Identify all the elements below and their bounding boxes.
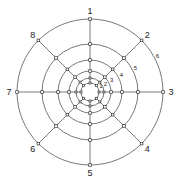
node-marker xyxy=(55,125,58,128)
spoke-label-5: 5 xyxy=(87,168,92,178)
node-marker xyxy=(103,91,105,93)
node-marker xyxy=(37,39,40,42)
node-marker xyxy=(83,97,85,99)
node-marker xyxy=(89,59,92,62)
node-marker xyxy=(68,91,71,94)
spoke-label-7: 7 xyxy=(6,87,11,97)
node-marker xyxy=(75,91,77,93)
node-marker xyxy=(89,18,92,21)
node-marker xyxy=(89,105,91,107)
ring-label-3: 3 xyxy=(110,77,114,83)
node-marker xyxy=(41,91,44,94)
node-marker xyxy=(66,113,69,116)
node-marker xyxy=(104,76,107,79)
node-marker xyxy=(74,76,77,79)
spoke-label-1: 1 xyxy=(87,6,92,16)
node-marker xyxy=(140,142,143,145)
node-marker xyxy=(79,101,81,103)
ring-label-6: 6 xyxy=(156,53,160,59)
node-marker xyxy=(123,57,126,60)
node-marker xyxy=(80,91,82,93)
node-marker xyxy=(89,82,91,84)
node-marker xyxy=(79,81,81,83)
node-marker xyxy=(89,70,92,73)
node-marker xyxy=(111,113,114,116)
node-marker xyxy=(98,91,100,93)
node-marker xyxy=(140,39,143,42)
node-marker xyxy=(104,106,107,109)
node-marker xyxy=(89,43,92,46)
spoke-label-8: 8 xyxy=(30,30,35,40)
ring-label-2: 2 xyxy=(104,81,108,87)
spoke-label-6: 6 xyxy=(30,144,35,154)
node-marker xyxy=(162,91,165,94)
node-marker xyxy=(57,91,60,94)
node-marker xyxy=(89,112,92,115)
node-marker xyxy=(89,164,92,167)
node-marker xyxy=(89,100,91,102)
node-marker xyxy=(99,101,101,103)
node-marker xyxy=(89,123,92,126)
node-marker xyxy=(111,68,114,71)
node-marker xyxy=(110,91,113,94)
node-marker xyxy=(16,91,19,94)
node-marker xyxy=(89,77,91,79)
node-marker xyxy=(121,91,124,94)
node-marker xyxy=(89,139,92,142)
node-marker xyxy=(95,85,97,87)
node-marker xyxy=(37,142,40,145)
node-marker xyxy=(123,125,126,128)
node-marker xyxy=(66,68,69,71)
concentric-ring-diagram: 12345678123456 xyxy=(0,0,178,183)
node-marker xyxy=(74,106,77,109)
node-marker xyxy=(83,85,85,87)
spoke-label-2: 2 xyxy=(145,30,150,40)
ring-label-5: 5 xyxy=(134,65,138,71)
ring-label-4: 4 xyxy=(120,72,124,78)
node-marker xyxy=(95,97,97,99)
spoke-label-3: 3 xyxy=(168,87,173,97)
spoke-label-4: 4 xyxy=(145,144,150,154)
node-marker xyxy=(137,91,140,94)
node-marker xyxy=(55,57,58,60)
